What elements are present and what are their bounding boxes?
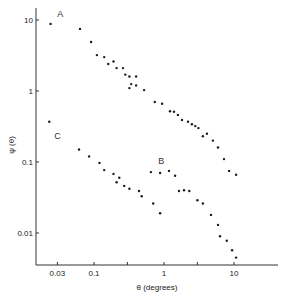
x-axis-title: θ (degrees) — [137, 283, 178, 292]
series-a — [49, 23, 237, 176]
data-point — [128, 75, 130, 77]
data-point — [202, 202, 204, 204]
data-point — [128, 188, 130, 190]
x-tick-label: 1 — [162, 269, 167, 278]
data-point — [206, 133, 208, 135]
data-point — [88, 155, 90, 157]
axes: 0.030.1110 1010.10.01 — [17, 8, 278, 278]
series-c — [48, 121, 161, 215]
data-point — [197, 127, 199, 129]
x-tick-label: 0.1 — [88, 269, 100, 278]
data-point — [141, 195, 143, 197]
data-point — [96, 54, 98, 56]
data-point — [78, 148, 80, 150]
data-point — [79, 28, 81, 30]
data-point — [219, 235, 221, 237]
data-point — [210, 214, 212, 216]
data-point — [178, 190, 180, 192]
data-point — [103, 56, 105, 58]
data-point — [112, 60, 114, 62]
data-point — [217, 224, 219, 226]
series-label-c: C — [54, 131, 61, 141]
data-point — [173, 111, 175, 113]
data-point — [187, 121, 189, 123]
series-labels: ABC — [54, 9, 164, 166]
y-tick-label: 0.1 — [22, 158, 34, 167]
data-point — [115, 67, 117, 69]
data-point — [135, 75, 137, 77]
y-tick-label: 1 — [29, 87, 34, 96]
data-point — [112, 173, 114, 175]
data-point — [181, 119, 183, 121]
data-point — [143, 89, 145, 91]
data-point — [174, 175, 176, 177]
series-b — [150, 170, 238, 259]
data-point — [49, 23, 51, 25]
data-point — [128, 87, 130, 89]
data-point — [154, 101, 156, 103]
data-point — [212, 139, 214, 141]
data-point — [138, 190, 140, 192]
x-tick-label: 0.03 — [50, 269, 66, 278]
data-point — [235, 256, 237, 258]
data-point — [150, 171, 152, 173]
data-point — [161, 103, 163, 105]
scatter-chart: 0.030.1110 1010.10.01 θ (degrees) ψ (θ) … — [0, 0, 284, 299]
data-point — [107, 63, 109, 65]
data-point — [217, 146, 219, 148]
data-point — [226, 240, 228, 242]
data-point — [98, 162, 100, 164]
x-tick-label: 10 — [230, 269, 239, 278]
series-label-a: A — [57, 9, 63, 19]
data-point — [228, 170, 230, 172]
data-point — [188, 190, 190, 192]
data-point — [152, 202, 154, 204]
data-point — [223, 158, 225, 160]
data-point — [90, 41, 92, 43]
data-point — [122, 67, 124, 69]
series-label-b: B — [158, 156, 164, 166]
data-point — [235, 174, 237, 176]
x-axis-ticks: 0.030.1110 — [50, 262, 239, 278]
data-point — [130, 83, 132, 85]
data-point — [48, 121, 50, 123]
y-axis-title: ψ (θ) — [7, 136, 16, 154]
data-point — [168, 170, 170, 172]
data-point — [183, 189, 185, 191]
data-point — [124, 73, 126, 75]
data-points — [48, 23, 237, 259]
data-point — [118, 177, 120, 179]
data-point — [159, 172, 161, 174]
data-point — [135, 84, 137, 86]
data-point — [159, 212, 161, 214]
y-tick-label: 10 — [24, 16, 33, 25]
data-point — [123, 185, 125, 187]
data-point — [196, 199, 198, 201]
data-point — [115, 181, 117, 183]
data-point — [177, 114, 179, 116]
data-point — [169, 110, 171, 112]
y-tick-label: 0.01 — [17, 229, 33, 238]
data-point — [202, 135, 204, 137]
data-point — [103, 169, 105, 171]
data-point — [231, 249, 233, 251]
data-point — [194, 125, 196, 127]
data-point — [191, 123, 193, 125]
